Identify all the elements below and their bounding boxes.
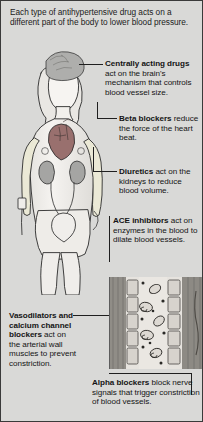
callout-vasodilators: Vasodilators and calcium channel blocker… bbox=[9, 311, 79, 369]
callout-title-ace: ACE inhibitors bbox=[113, 216, 169, 225]
callout-centrally-acting-drugs: Centrally acting drugs act on the brain'… bbox=[105, 59, 201, 97]
callout-diuretics: Diuretics act on the kidneys to reduce b… bbox=[119, 167, 201, 196]
nerve-cable bbox=[18, 198, 26, 235]
figure-outline bbox=[22, 65, 103, 295]
callout-title-central: Centrally acting drugs bbox=[105, 59, 189, 68]
leader-line-alpha-h bbox=[109, 373, 192, 374]
callout-alpha-blockers: Alpha blockers block nerve signals that … bbox=[92, 378, 200, 407]
callout-title-alpha: Alpha blockers bbox=[92, 378, 149, 387]
leader-line-diuretics-h bbox=[93, 171, 117, 172]
leader-line-central bbox=[79, 64, 103, 65]
intro-caption: Each type of antihypertensive drug acts … bbox=[10, 7, 196, 28]
callout-body-central: act on the brain's mechanism that contro… bbox=[105, 69, 192, 97]
brain-organ bbox=[46, 52, 84, 81]
blood-vessel-cross-section-panel bbox=[109, 277, 203, 369]
leader-line-beta-v bbox=[97, 102, 98, 119]
leader-line-diuretics-v bbox=[93, 147, 94, 172]
callout-title-beta: Beta blockers bbox=[119, 114, 171, 123]
leader-line-ace bbox=[109, 216, 110, 262]
antihypertensive-drug-diagram: Each type of antihypertensive drug acts … bbox=[0, 0, 203, 422]
callout-beta-blockers: Beta blockers reduce the force of the he… bbox=[119, 114, 201, 143]
callout-title-diuretics: Diuretics bbox=[119, 167, 153, 176]
leader-line-beta-h bbox=[97, 118, 117, 119]
vessel-svg bbox=[110, 277, 203, 369]
callout-ace-inhibitors: ACE inhibitors act on enzymes in the blo… bbox=[113, 216, 201, 245]
